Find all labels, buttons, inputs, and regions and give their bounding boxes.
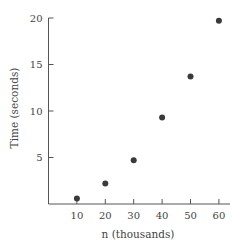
y-tick-label: 15 [30, 59, 43, 70]
x-tick-label: 20 [99, 210, 112, 221]
ticks: 5101520102030405060 [30, 13, 226, 222]
x-axis-label: n (thousands) [102, 228, 175, 240]
data-point [188, 74, 194, 80]
y-axis-label: Time (seconds) [8, 68, 20, 149]
y-tick-label: 20 [30, 13, 43, 24]
y-tick-label: 10 [30, 106, 43, 117]
y-tick-label: 5 [36, 152, 42, 163]
data-point [102, 181, 108, 187]
x-tick-label: 30 [127, 210, 140, 221]
x-tick-label: 40 [156, 210, 169, 221]
data-point [74, 195, 80, 201]
data-point [159, 115, 165, 121]
axes [49, 18, 231, 204]
x-tick-label: 10 [71, 210, 84, 221]
x-tick-label: 50 [184, 210, 197, 221]
data-point [131, 157, 137, 163]
data-points [74, 18, 222, 202]
scatter-chart: 5101520102030405060 n (thousands) Time (… [0, 0, 243, 250]
data-point [216, 18, 222, 24]
x-tick-label: 60 [213, 210, 226, 221]
